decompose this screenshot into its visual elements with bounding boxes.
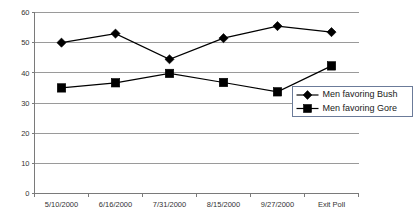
data-point-marker-square xyxy=(273,88,281,96)
line-chart: 0102030405060 5/10/20006/16/20007/31/200… xyxy=(0,0,416,217)
x-axis-tick-label: Exit Poll xyxy=(318,200,345,209)
data-point-marker-diamond xyxy=(327,28,336,37)
y-axis-tick-label: 50 xyxy=(21,38,29,47)
data-point-marker-diamond xyxy=(219,34,228,43)
legend-item-2[interactable]: Men favoring Gore xyxy=(297,103,398,113)
y-axis-tick-label: 20 xyxy=(21,129,29,138)
y-axis-tick-label: 40 xyxy=(21,69,29,78)
data-point-marker-diamond xyxy=(273,21,282,30)
data-point-marker-square xyxy=(327,62,335,70)
data-point-marker-square xyxy=(111,79,119,87)
data-point-marker-square xyxy=(304,105,312,113)
series-line xyxy=(62,66,332,92)
y-axis-tick-label: 30 xyxy=(21,99,29,108)
data-point-marker-square xyxy=(57,84,65,92)
x-axis-tick-labels: 5/10/20006/16/20007/31/20008/15/20009/27… xyxy=(45,200,346,209)
data-series xyxy=(57,21,336,96)
x-axis-tick-label: 9/27/2000 xyxy=(261,200,294,209)
y-axis-tick-label: 60 xyxy=(21,8,29,17)
legend-item-label: Men favoring Bush xyxy=(323,89,398,99)
y-axis-tick-label: 10 xyxy=(21,159,29,168)
y-axis-tick-label: 0 xyxy=(25,189,29,198)
data-point-marker-diamond xyxy=(165,55,174,64)
y-axis-tick-labels: 0102030405060 xyxy=(21,8,34,198)
legend-item-label: Men favoring Gore xyxy=(323,103,398,113)
data-point-marker-square xyxy=(165,69,173,77)
x-axis-tick-label: 6/16/2000 xyxy=(99,200,132,209)
data-point-marker-diamond xyxy=(57,38,66,47)
x-axis-tick-label: 8/15/2000 xyxy=(207,200,240,209)
x-axis-tick-label: 7/31/2000 xyxy=(153,200,186,209)
x-axis-tick-marks xyxy=(35,194,359,198)
x-axis-tick-label: 5/10/2000 xyxy=(45,200,78,209)
data-point-marker-square xyxy=(219,78,227,86)
chart-legend: Men favoring BushMen favoring Gore xyxy=(293,87,413,117)
chart-container: 0102030405060 5/10/20006/16/20007/31/200… xyxy=(0,0,416,217)
data-point-marker-diamond xyxy=(111,29,120,38)
